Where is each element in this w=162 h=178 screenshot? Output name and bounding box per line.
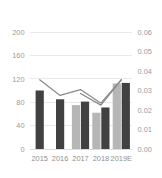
left-axis-tick-label: 80 bbox=[16, 98, 24, 107]
bar-bar-series-dark-2016 bbox=[56, 99, 64, 149]
left-axis-tick-label: 40 bbox=[16, 121, 24, 130]
bar-bar-series-dark-2017 bbox=[81, 102, 89, 149]
left-axis-tick-label: 0 bbox=[20, 145, 24, 154]
right-axis-tick-label: 0.05 bbox=[138, 47, 152, 56]
line-series-1 bbox=[40, 80, 122, 103]
left-axis-tick-label: 160 bbox=[12, 51, 24, 60]
right-axis-tick-label: 0.00 bbox=[138, 145, 152, 154]
right-axis-tick-label: 0.03 bbox=[138, 86, 152, 95]
bar-bar-series-light-2017 bbox=[72, 105, 80, 149]
right-axis-tick-label: 0.06 bbox=[138, 28, 152, 37]
right-axis-tick-label: 0.04 bbox=[138, 67, 152, 76]
x-axis-tick-label: 2016 bbox=[52, 154, 68, 163]
bar-bar-series-dark-2015 bbox=[36, 91, 44, 150]
bar-bar-series-dark-2019E bbox=[122, 83, 130, 149]
chart-container: 040801201602000.000.010.020.030.040.050.… bbox=[0, 0, 162, 178]
right-axis-tick-label: 0.01 bbox=[138, 125, 152, 134]
left-axis-tick-label: 200 bbox=[12, 28, 24, 37]
x-axis-tick-label: 2018 bbox=[93, 154, 109, 163]
x-axis-tick-label: 2015 bbox=[31, 154, 47, 163]
left-axis-tick-label: 120 bbox=[12, 75, 24, 84]
bar-bar-series-dark-2018 bbox=[101, 107, 109, 149]
bar-bar-series-light-2018 bbox=[92, 113, 100, 149]
x-axis-tick-label: 2019E bbox=[111, 154, 132, 163]
right-axis-tick-label: 0.02 bbox=[138, 106, 152, 115]
x-axis-tick-label: 2017 bbox=[72, 154, 88, 163]
chart-plot-area: 040801201602000.000.010.020.030.040.050.… bbox=[0, 0, 162, 178]
bar-bar-series-light-2019E bbox=[113, 83, 121, 149]
